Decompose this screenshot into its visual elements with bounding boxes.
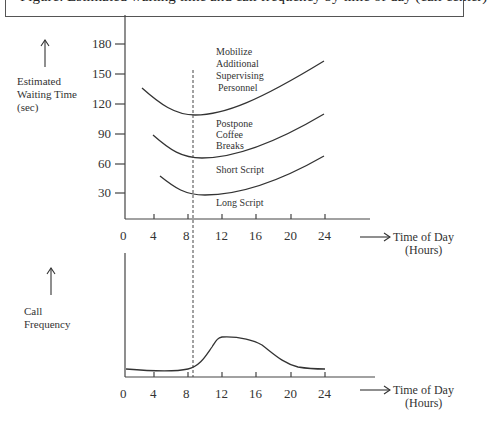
top-x-tick-0: 0 <box>120 228 127 244</box>
label-mobilize-4: Personnel <box>218 82 257 95</box>
bottom-x-tick-8: 8 <box>183 386 190 402</box>
label-long-script: Long Script <box>216 197 264 210</box>
label-postpone-3: Breaks <box>216 140 244 153</box>
bottom-y-arrow <box>47 268 55 295</box>
y-tick-180: 180 <box>92 36 112 52</box>
bottom-x-tick-16: 16 <box>249 386 262 402</box>
top-x-tick-20: 20 <box>284 228 297 244</box>
y-axis-label-line3: (sec) <box>17 101 38 114</box>
y-tick-30: 30 <box>98 185 111 201</box>
top-y-arrow <box>41 40 49 67</box>
label-mobilize-1: Mobilize <box>216 46 252 59</box>
bottom-x-arrow <box>360 386 390 394</box>
bottom-x-axis-unit: (Hours) <box>405 397 442 410</box>
top-x-arrow <box>360 233 390 241</box>
bottom-x-tick-12: 12 <box>215 386 228 402</box>
bottom-x-tick-0: 0 <box>120 386 127 402</box>
y-tick-150: 150 <box>92 66 112 82</box>
label-mobilize-3: Supervising <box>216 70 264 83</box>
top-x-tick-12: 12 <box>215 228 228 244</box>
y-tick-60: 60 <box>98 156 111 172</box>
bottom-x-tick-24: 24 <box>318 386 331 402</box>
label-mobilize-2: Additional <box>216 58 259 71</box>
bottom-chart-axes <box>125 253 375 377</box>
top-x-tick-16: 16 <box>249 228 262 244</box>
top-x-axis-label: Time of Day <box>393 231 454 244</box>
y-axis-label-line1: Estimated <box>17 75 61 88</box>
bottom-x-axis-label: Time of Day <box>393 384 454 397</box>
label-short-script: Short Script <box>216 164 264 177</box>
top-x-tick-24: 24 <box>318 228 331 244</box>
y-axis-label-line2: Waiting Time <box>17 88 77 101</box>
call-frequency-curve <box>126 337 325 371</box>
call-freq-label-1: Call <box>24 305 42 318</box>
bottom-x-tick-20: 20 <box>284 386 297 402</box>
y-tick-90: 90 <box>98 126 111 142</box>
call-freq-label-2: Frequency <box>24 318 70 331</box>
top-x-tick-4: 4 <box>150 228 157 244</box>
top-x-axis-unit: (Hours) <box>405 244 442 257</box>
y-tick-120: 120 <box>92 96 112 112</box>
bottom-x-tick-4: 4 <box>150 386 157 402</box>
top-x-tick-8: 8 <box>183 228 190 244</box>
